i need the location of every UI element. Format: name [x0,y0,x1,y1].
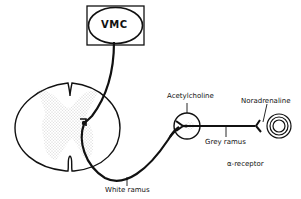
ganglion [174,103,200,139]
white-ramus-label: White ramus [105,186,150,194]
receptor-label: α-receptor [227,160,264,168]
vmc-label: VMC [101,19,128,30]
grey-ramus-label: Grey ramus [205,138,246,146]
noradrenaline-label: Noradrenaline [241,97,291,105]
acetylcholine-label: Acetylcholine [167,92,214,100]
effector-vessel [267,114,291,138]
